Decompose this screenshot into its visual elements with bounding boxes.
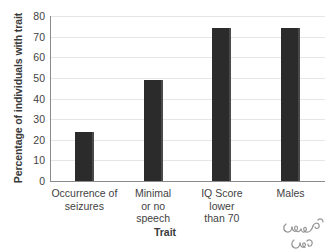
x-axis-title: Trait <box>0 226 330 238</box>
y-axis-tick-label: 60 <box>33 51 45 63</box>
y-axis-tick-label: 80 <box>33 10 45 22</box>
y-axis-tick-label: 0 <box>39 175 45 187</box>
bar <box>212 28 231 181</box>
y-axis-tick-label: 40 <box>33 93 45 105</box>
y-axis-tick-label: 50 <box>33 72 45 84</box>
bar <box>75 132 94 182</box>
y-axis-tick-label: 70 <box>33 31 45 43</box>
y-axis-tick-label: 10 <box>33 154 45 166</box>
x-axis-tick-label-line: than 70 <box>180 212 264 225</box>
y-axis-tick-label: 20 <box>33 134 45 146</box>
y-axis-title: Percentage of individuals with trait <box>12 8 24 188</box>
gridline <box>51 16 325 17</box>
x-axis-tick-label-line: lower <box>180 200 264 213</box>
bar <box>144 80 163 181</box>
x-axis-line <box>50 181 325 182</box>
x-axis-tick-label: Males <box>249 187 330 200</box>
bar <box>281 28 300 181</box>
bar-chart-figure: Percentage of individuals with trait 010… <box>0 0 330 252</box>
x-axis-tick-label-line: Males <box>249 187 330 200</box>
plot-area: 01020304050607080 Occurrence ofseizuresM… <box>50 16 325 181</box>
y-axis-tick-label: 30 <box>33 113 45 125</box>
